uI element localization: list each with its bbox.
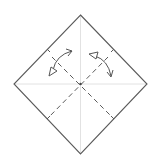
tick-top-right [111, 49, 114, 52]
fold-unfold-arrow-left [49, 49, 72, 76]
arrow-right-arc [95, 56, 111, 76]
origami-diagram [0, 0, 161, 167]
valley-fold-tl-br [52, 57, 114, 119]
center-point [79, 83, 81, 85]
arrow-right-hollow-head-icon [89, 52, 98, 59]
tick-top-left [47, 49, 50, 52]
valley-fold-tr-bl [47, 57, 108, 119]
arrow-left-hollow-head-icon [49, 67, 57, 76]
